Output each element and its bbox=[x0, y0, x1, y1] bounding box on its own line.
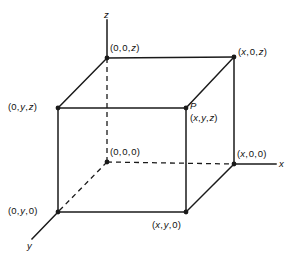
vertex-dot-0y0 bbox=[56, 210, 61, 215]
edge-00z-x0z bbox=[107, 57, 234, 58]
vertex-dot-x00 bbox=[232, 162, 237, 167]
vertex-dot-x0z bbox=[232, 55, 237, 60]
vertex-label-0yz: (0, y, z) bbox=[8, 101, 37, 112]
vertex-dot-00z bbox=[105, 56, 110, 61]
hidden-edge-origin-x00 bbox=[107, 162, 234, 164]
vertex-dots bbox=[56, 55, 237, 215]
point-p-name: P bbox=[190, 100, 217, 112]
vertex-label-00z: (0, 0, z) bbox=[110, 42, 139, 53]
vertex-dot-origin bbox=[105, 160, 110, 165]
axis-y-line bbox=[32, 212, 58, 239]
vertex-label-x0z: (x, 0, z) bbox=[238, 46, 267, 57]
figure-canvas bbox=[0, 0, 298, 261]
point-p-coords: (x, y, z) bbox=[190, 112, 217, 123]
vertex-label-x00: (x, 0, 0) bbox=[237, 148, 266, 159]
vertex-dot-p bbox=[184, 106, 189, 111]
vertex-dot-xy0 bbox=[184, 210, 189, 215]
vertex-label-xy0: (x, y, 0) bbox=[152, 219, 181, 230]
vertex-dot-0yz bbox=[56, 106, 61, 111]
vertex-label-0y0: (0, y, 0) bbox=[8, 205, 37, 216]
hidden-edge-origin-0y0 bbox=[58, 162, 107, 212]
axis-label-y: y bbox=[27, 240, 32, 251]
vertex-label-origin: (0, 0, 0) bbox=[110, 146, 140, 157]
axis-label-x: x bbox=[279, 158, 284, 169]
point-p-label: P (x, y, z) bbox=[190, 100, 217, 123]
edge-xy0-x00 bbox=[186, 164, 234, 212]
edge-00z-0yz bbox=[58, 58, 107, 108]
coordinate-box-figure: z x y (0, 0, z) (x, 0, z) (0, y, z) P (x… bbox=[0, 0, 298, 261]
axis-label-z: z bbox=[104, 9, 109, 20]
